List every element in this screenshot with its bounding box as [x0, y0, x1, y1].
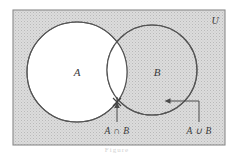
set-a-label: A [73, 66, 81, 78]
venn-diagram-figure: A B U A ∩ B A ∪ B Figure [0, 0, 234, 158]
intersection-label: A ∩ B [103, 126, 129, 136]
universal-set-label: U [211, 15, 219, 26]
figure-caption: Figure [0, 146, 234, 154]
set-b-label: B [154, 66, 161, 78]
venn-diagram-canvas: A B U A ∩ B A ∪ B [0, 0, 234, 158]
union-label: A ∪ B [185, 126, 211, 136]
